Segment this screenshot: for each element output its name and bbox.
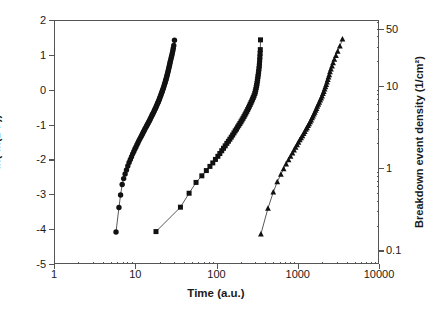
- x-minor-tick: [184, 262, 185, 265]
- data-point: [337, 43, 343, 49]
- x-minor-tick: [371, 262, 372, 265]
- y-tick-label: 0: [40, 84, 46, 96]
- y2-minor-tick: [377, 47, 380, 48]
- y2-minor-tick: [377, 99, 380, 100]
- x-axis-title: Time (a.u.): [187, 287, 244, 299]
- y2-minor-tick: [377, 90, 380, 91]
- data-point: [118, 192, 123, 197]
- y-tick-label: 1: [40, 49, 46, 61]
- data-point: [153, 229, 158, 234]
- y2-tick-label: 1: [386, 162, 392, 174]
- x-minor-tick: [213, 262, 214, 265]
- x-tick-label: 100: [207, 268, 225, 280]
- x-minor-tick: [78, 262, 79, 265]
- x-minor-tick: [337, 262, 338, 265]
- x-minor-tick: [192, 262, 193, 265]
- y2-minor-tick: [377, 193, 380, 194]
- series-circle: [113, 38, 177, 235]
- series-triangle: [258, 36, 345, 236]
- x-minor-tick: [127, 262, 128, 265]
- x-minor-tick: [241, 262, 242, 265]
- y2-minor-tick: [377, 104, 380, 105]
- y2-minor-tick: [377, 129, 380, 130]
- data-point: [340, 36, 346, 42]
- data-point: [172, 38, 177, 43]
- y2-tick-label: 50: [386, 23, 398, 35]
- data-point: [335, 48, 341, 54]
- data-point: [199, 173, 204, 178]
- x-minor-tick: [322, 262, 323, 265]
- x-minor-tick: [93, 262, 94, 265]
- y-tick: [49, 20, 54, 21]
- y-axis-title: ln(-ln(1-F)): [0, 115, 2, 169]
- x-minor-tick: [174, 262, 175, 265]
- x-minor-tick: [255, 262, 256, 265]
- data-point: [258, 231, 264, 237]
- weibull-breakdown-chart: 210-1-2-3-4-5110100100010000501010.1 ln(…: [0, 0, 432, 316]
- y2-tick: [379, 86, 384, 87]
- data-point: [270, 189, 276, 195]
- y-tick-label: 2: [40, 14, 46, 26]
- y2-tick-label: 0.1: [386, 244, 401, 256]
- x-minor-tick: [366, 262, 367, 265]
- data-point: [194, 180, 199, 185]
- x-minor-tick: [375, 262, 376, 265]
- y-tick: [49, 125, 54, 126]
- x-minor-tick: [347, 262, 348, 265]
- data-point: [113, 229, 118, 234]
- y2-minor-tick: [377, 181, 380, 182]
- x-minor-tick: [123, 262, 124, 265]
- y2-minor-tick: [377, 29, 380, 30]
- x-minor-tick: [355, 262, 356, 265]
- y2-minor-tick: [377, 61, 380, 62]
- x-tick-label: 1000: [286, 268, 310, 280]
- y2-minor-tick: [377, 119, 380, 120]
- x-minor-tick: [280, 262, 281, 265]
- y2-minor-tick: [377, 94, 380, 95]
- y-tick: [49, 229, 54, 230]
- y-tick-label: -1: [36, 119, 46, 131]
- x-minor-tick: [361, 262, 362, 265]
- data-point: [265, 205, 271, 211]
- y2-minor-tick: [377, 36, 380, 37]
- y-tick-label: -2: [36, 153, 46, 165]
- y2-minor-tick: [377, 201, 380, 202]
- y2-minor-tick: [377, 111, 380, 112]
- data-point: [274, 179, 280, 185]
- y2-minor-tick: [377, 186, 380, 187]
- data-point: [278, 171, 284, 177]
- y-tick: [49, 159, 54, 160]
- x-minor-tick: [285, 262, 286, 265]
- x-minor-tick: [132, 262, 133, 265]
- y-tick-label: -5: [36, 258, 46, 270]
- x-tick-label: 1: [51, 268, 57, 280]
- y2-minor-tick: [377, 176, 380, 177]
- x-minor-tick: [209, 262, 210, 265]
- y2-minor-tick: [377, 211, 380, 212]
- secondary-y-axis-title: Breakdown event density (1/cm²): [413, 56, 425, 228]
- y-tick: [49, 55, 54, 56]
- x-tick-label: 10000: [364, 268, 395, 280]
- x-minor-tick: [204, 262, 205, 265]
- data-point: [281, 166, 287, 172]
- x-minor-tick: [294, 262, 295, 265]
- data-point: [116, 205, 121, 210]
- y2-minor-tick: [377, 226, 380, 227]
- x-minor-tick: [265, 262, 266, 265]
- x-minor-tick: [160, 262, 161, 265]
- y2-minor-tick: [377, 22, 380, 23]
- data-point: [171, 43, 176, 48]
- data-point: [187, 191, 192, 196]
- x-minor-tick: [117, 262, 118, 265]
- y2-tick: [379, 29, 384, 30]
- y-tick-label: -3: [36, 188, 46, 200]
- y2-minor-tick: [377, 172, 380, 173]
- x-tick-label: 10: [129, 268, 141, 280]
- x-minor-tick: [290, 262, 291, 265]
- series-line: [116, 40, 174, 232]
- x-minor-tick: [111, 262, 112, 265]
- y2-minor-tick: [377, 143, 380, 144]
- y2-tick: [379, 250, 384, 251]
- data-point: [178, 205, 183, 210]
- x-minor-tick: [103, 262, 104, 265]
